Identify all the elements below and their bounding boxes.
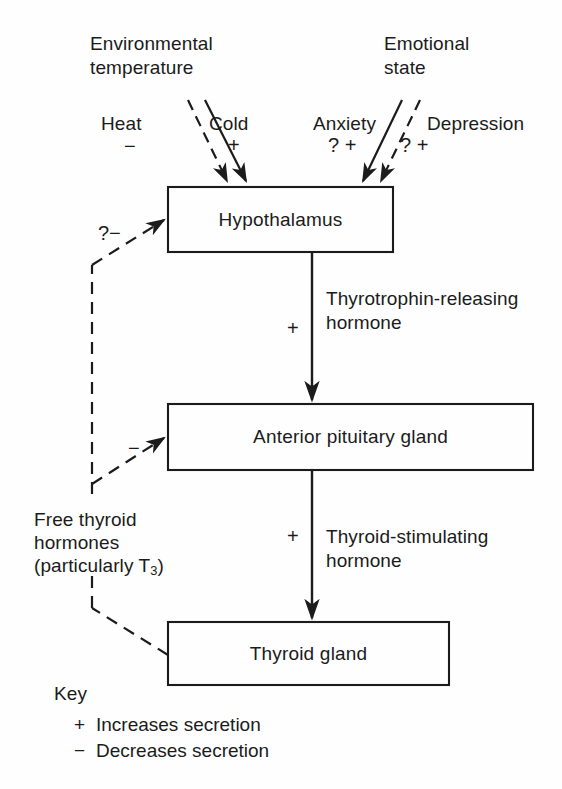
key-text-increases: Increases secretion bbox=[96, 714, 261, 735]
feedback-text-line3-subscript: 3 bbox=[150, 563, 157, 578]
key-text-decreases: Decreases secretion bbox=[96, 740, 269, 761]
trh-label-line2: hormone bbox=[326, 311, 402, 334]
input-anxiety-label: Anxiety bbox=[313, 112, 376, 135]
input-emotional-heading-line1: Emotional bbox=[384, 32, 469, 55]
input-heat-label: Heat bbox=[101, 112, 142, 135]
box-label-hypothalamus: Hypothalamus bbox=[168, 187, 393, 252]
feedback-text-line3: (particularly T3) bbox=[34, 554, 164, 582]
input-cold-label: Cold bbox=[209, 112, 248, 135]
feedback-sign-hypothalamus: ?− bbox=[98, 222, 121, 245]
key-title: Key bbox=[54, 682, 87, 705]
input-depression-sign: ? + bbox=[400, 134, 428, 157]
feedback-path-thyroid-to-spine bbox=[92, 608, 168, 655]
tsh-label-line1: Thyroid-stimulating bbox=[326, 525, 488, 548]
feedback-text-line3-pre: (particularly T bbox=[34, 555, 150, 576]
input-environmental-heading-line2: temperature bbox=[90, 56, 194, 79]
tsh-sign-plus: + bbox=[287, 525, 299, 548]
key-symbol-minus: − bbox=[74, 740, 96, 762]
key-entry-minus: −Decreases secretion bbox=[74, 740, 269, 762]
feedback-text-line1: Free thyroid bbox=[34, 508, 137, 531]
feedback-text-line3-post: ) bbox=[158, 555, 164, 576]
input-cold-sign: + bbox=[228, 134, 240, 157]
input-emotional-heading-line2: state bbox=[384, 56, 426, 79]
key-entry-plus: +Increases secretion bbox=[74, 714, 261, 736]
tsh-label-line2: hormone bbox=[326, 549, 402, 572]
feedback-text-line2: hormones bbox=[34, 531, 119, 554]
trh-label-line1: Thyrotrophin-releasing bbox=[326, 287, 518, 310]
input-anxiety-sign: ? + bbox=[328, 134, 356, 157]
input-depression-label: Depression bbox=[427, 112, 524, 135]
box-label-anterior-pituitary: Anterior pituitary gland bbox=[168, 404, 533, 470]
box-label-thyroid-gland: Thyroid gland bbox=[168, 622, 449, 685]
thyroid-axis-diagram: Environmental temperature Heat − Cold + … bbox=[0, 0, 562, 789]
input-heat-sign: − bbox=[124, 135, 136, 158]
trh-sign-plus: + bbox=[287, 317, 299, 340]
feedback-sign-pituitary: − bbox=[128, 437, 140, 460]
input-environmental-heading-line1: Environmental bbox=[90, 32, 213, 55]
key-symbol-plus: + bbox=[74, 714, 96, 736]
